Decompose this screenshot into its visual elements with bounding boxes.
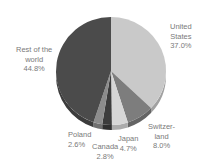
label-us-line2: States [170, 32, 192, 42]
pie-slices [56, 17, 166, 125]
label-japan-line1: Japan [118, 134, 138, 144]
label-switzerland-line1: Switzer- [148, 122, 175, 132]
label-rest-line2: world [16, 55, 52, 65]
label-canada-line1: Canada [92, 142, 118, 152]
label-switzerland-value: 8.0% [148, 141, 175, 151]
label-japan-value: 4.7% [118, 144, 138, 154]
label-switzerland-line2: land [148, 132, 175, 142]
label-us-value: 37.0% [170, 41, 192, 51]
label-poland-line1: Poland [68, 130, 91, 140]
label-canada-value: 2.8% [92, 152, 118, 162]
label-japan: Japan 4.7% [118, 134, 138, 153]
label-united-states: United States 37.0% [170, 22, 192, 51]
label-rest-of-world: Rest of the world 44.8% [16, 45, 52, 74]
rim-canada [102, 124, 112, 130]
label-us-line1: United [170, 22, 192, 32]
label-rest-value: 44.8% [16, 64, 52, 74]
label-canada: Canada 2.8% [92, 142, 118, 161]
label-rest-line1: Rest of the [16, 45, 52, 55]
label-switzerland: Switzer- land 8.0% [148, 122, 175, 151]
label-poland: Poland 2.6% [68, 130, 91, 149]
label-poland-value: 2.6% [68, 140, 91, 150]
